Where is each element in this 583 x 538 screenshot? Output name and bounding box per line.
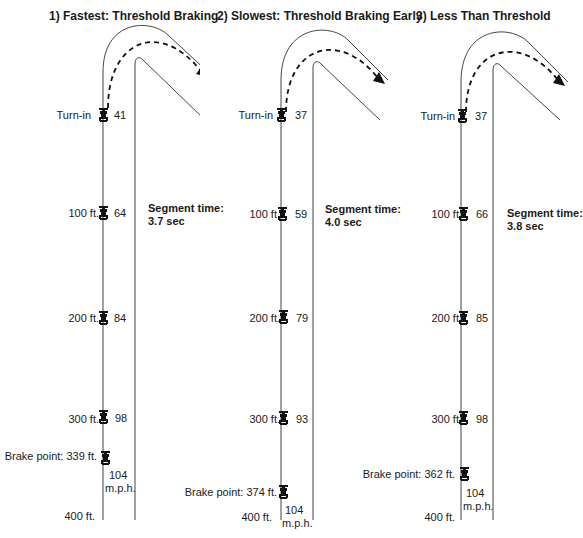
segment-time-value: 3.8 sec bbox=[507, 220, 544, 233]
car-icon bbox=[459, 411, 468, 425]
marker-label-turn-in: Turn-in bbox=[421, 110, 455, 123]
end-distance-label: 400 ft. bbox=[424, 511, 455, 524]
segment-time-label: Segment time: bbox=[507, 207, 583, 220]
panel-less-than-threshold: 3) Less Than Threshold Turn-in 37 100 ft… bbox=[0, 0, 583, 538]
speed-value: 98 bbox=[476, 413, 488, 426]
brake-speed-value: 104 bbox=[466, 487, 484, 500]
car-icon bbox=[460, 467, 469, 481]
marker-label-100ft: 100 ft. bbox=[431, 208, 462, 221]
car-icon bbox=[458, 109, 467, 123]
track-inner-edge bbox=[493, 64, 560, 520]
marker-label-300ft: 300 ft. bbox=[431, 413, 462, 426]
car-icon bbox=[459, 207, 468, 221]
speed-value: 66 bbox=[476, 208, 488, 221]
track-outer-edge bbox=[461, 32, 568, 520]
marker-label-200ft: 200 ft. bbox=[431, 312, 462, 325]
speed-value: 85 bbox=[476, 312, 488, 325]
speed-value: 37 bbox=[475, 110, 487, 123]
track-diagram bbox=[0, 0, 583, 538]
brake-speed-unit: m.p.h. bbox=[463, 500, 494, 513]
racing-line-dashed bbox=[466, 52, 558, 112]
panel-title: 3) Less Than Threshold bbox=[416, 9, 551, 23]
car-icon bbox=[459, 311, 468, 325]
brake-point-label: Brake point: 362 ft. bbox=[363, 468, 455, 481]
